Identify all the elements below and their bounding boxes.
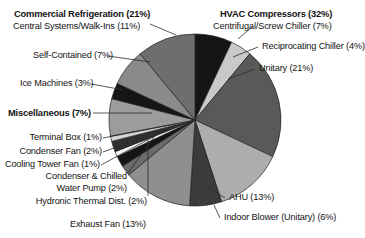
label-indoor-blower-unitary: Indoor Blower (Unitary) (6%) <box>224 212 336 223</box>
label-condenser-chilled-line2: Water Pump (2%) <box>57 183 127 193</box>
label-unitary: Unitary (21%) <box>259 63 313 74</box>
label-reciprocating-chiller: Reciprocating Chiller (4%) <box>262 41 365 52</box>
label-exhaust-fan: Exhaust Fan (13%) <box>0 219 146 230</box>
label-central-systems-walkins: Central Systems/Walk-Ins (11%) <box>13 21 140 32</box>
label-condenser-chilled-line1: Condenser & Chilled <box>46 171 127 181</box>
label-cooling-tower-fan: Cooling Tower Fan (1%) <box>0 159 100 170</box>
label-hvac-compressors: HVAC Compressors (32%) <box>220 8 332 19</box>
label-commercial-refrigeration: Commercial Refrigeration (21%) <box>14 8 150 19</box>
label-hydronic-thermal-dist: Hydronic Thermal Dist. (2%) <box>0 196 147 207</box>
label-self-contained: Self-Contained (7%) <box>33 50 113 61</box>
label-ice-machines: Ice Machines (3%) <box>20 78 94 89</box>
label-condenser-chilled-water-pump: Condenser & Chilled Water Pump (2%) <box>0 171 127 194</box>
label-condenser-fan: Condenser Fan (2%) <box>0 146 102 157</box>
label-miscellaneous: Miscellaneous (7%) <box>8 107 91 118</box>
label-ahu: AHU (13%) <box>229 192 274 203</box>
label-centrifugal-screw-chiller: Centrifugal/Screw Chiller (7%) <box>213 21 332 32</box>
label-terminal-box: Terminal Box (1%) <box>0 132 102 143</box>
